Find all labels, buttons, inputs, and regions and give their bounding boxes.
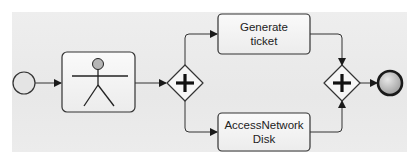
parallel-split-gateway[interactable] — [167, 65, 203, 101]
parallel-join-gateway[interactable] — [324, 65, 360, 101]
generate-ticket-line2: ticket — [251, 34, 278, 48]
end-event[interactable] — [378, 71, 402, 95]
access-network-disk-line1: AccessNetwork — [224, 118, 303, 132]
sequence-flow-access-to-join — [310, 101, 342, 132]
bpmn-diagram — [0, 0, 418, 159]
sequence-flow-split-to-access — [185, 101, 217, 132]
start-event[interactable] — [13, 72, 35, 94]
user-task[interactable] — [62, 52, 135, 112]
generate-ticket-line1: Generate — [240, 20, 288, 34]
access-network-disk-label: AccessNetwork Disk — [218, 113, 310, 151]
generate-ticket-label: Generate ticket — [218, 14, 310, 54]
sequence-flow-split-to-generate — [185, 34, 217, 65]
access-network-disk-line2: Disk — [253, 132, 275, 146]
sequence-flow-generate-to-join — [310, 34, 342, 65]
